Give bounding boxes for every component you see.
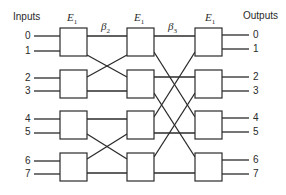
input-wires: [34, 36, 60, 174]
output-wires: [222, 35, 249, 174]
outputs-label: Outputs: [243, 11, 278, 21]
input-port-4: 4: [25, 114, 31, 124]
input-port-1: 1: [25, 46, 31, 56]
switch-box: [195, 111, 222, 139]
switch-box: [60, 111, 87, 139]
inputs-label: Inputs: [13, 12, 40, 22]
output-port-7: 7: [253, 169, 259, 179]
switch-box: [127, 70, 154, 98]
input-port-2: 2: [25, 73, 31, 83]
switch-box: [195, 153, 222, 181]
switch-box: [195, 70, 222, 98]
switch-box: [60, 28, 87, 56]
stage-label-1: E1: [67, 12, 77, 27]
input-port-6: 6: [25, 156, 31, 166]
output-port-6: 6: [253, 155, 259, 165]
output-port-1: 1: [253, 44, 259, 54]
input-port-7: 7: [25, 169, 31, 179]
input-port-5: 5: [25, 127, 31, 137]
interconnect-label-beta3: β3: [168, 21, 177, 36]
switch-box: [60, 153, 87, 181]
output-port-2: 2: [253, 72, 259, 82]
output-port-5: 5: [253, 127, 259, 137]
stage-label-3: E1: [205, 12, 215, 27]
output-port-3: 3: [253, 86, 259, 96]
beta2-interconnect: [87, 36, 127, 173]
switch-box: [127, 153, 154, 181]
switch-box: [127, 28, 154, 56]
input-port-3: 3: [25, 86, 31, 96]
switch-boxes: [60, 28, 222, 181]
output-port-0: 0: [253, 30, 259, 40]
network-diagram: [0, 0, 286, 195]
switch-box: [60, 70, 87, 98]
input-port-0: 0: [25, 31, 31, 41]
stage-label-2: E1: [134, 12, 144, 27]
switch-box: [127, 111, 154, 139]
beta3-interconnect: [154, 36, 195, 173]
output-port-4: 4: [253, 113, 259, 123]
switch-box: [195, 28, 222, 56]
interconnect-label-beta2: β2: [101, 21, 110, 36]
